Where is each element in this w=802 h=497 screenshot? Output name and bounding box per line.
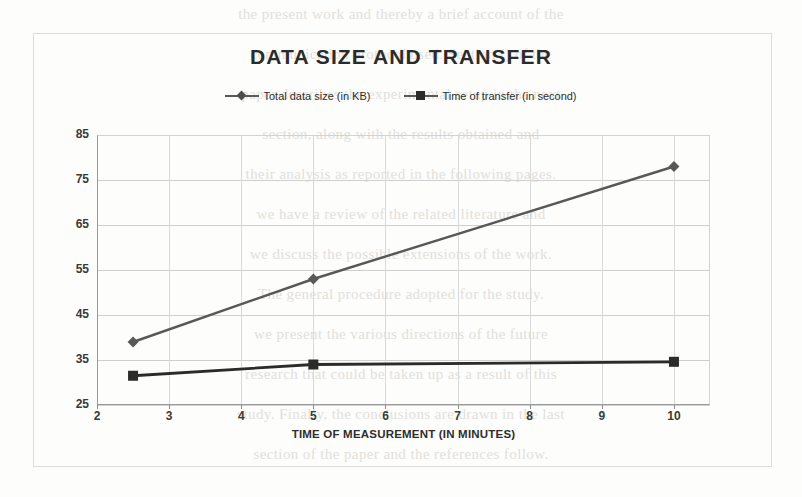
x-axis-tick-mark <box>530 405 531 409</box>
y-axis-tick-label: 55 <box>49 262 89 276</box>
x-axis-tick-label: 3 <box>154 409 184 423</box>
diamond-marker-icon <box>225 91 259 101</box>
series-line-1 <box>133 167 674 343</box>
y-axis-tick-label: 85 <box>49 127 89 141</box>
data-point-marker <box>128 371 138 381</box>
x-axis-tick-label: 8 <box>515 409 545 423</box>
y-axis-tick-label: 65 <box>49 217 89 231</box>
background-bleed-line: the present work and thereby a brief acc… <box>0 6 802 23</box>
chart-legend: Total data size (in KB) Time of transfer… <box>0 90 802 102</box>
plot-area: 25354555657585 2345678910 <box>97 135 710 405</box>
x-axis-tick-mark <box>241 405 242 409</box>
y-axis-tick-labels: 25354555657585 <box>45 135 89 405</box>
horizontal-gridline <box>97 405 710 406</box>
x-axis-tick-mark <box>97 405 98 409</box>
data-point-marker <box>669 357 679 367</box>
x-axis-tick-label: 9 <box>587 409 617 423</box>
square-marker-icon <box>404 91 438 101</box>
legend-item-total-data-size[interactable]: Total data size (in KB) <box>225 90 370 102</box>
x-axis-tick-label: 7 <box>443 409 473 423</box>
x-axis-tick-mark <box>385 405 386 409</box>
y-axis-tick-label: 75 <box>49 172 89 186</box>
y-axis-tick-label: 35 <box>49 352 89 366</box>
x-axis-tick-mark <box>602 405 603 409</box>
x-axis-tick-label: 6 <box>370 409 400 423</box>
x-axis-title: TIME OF MEASUREMENT (IN MINUTES) <box>97 428 710 440</box>
x-axis-tick-mark <box>674 405 675 409</box>
legend-label-time-of-transfer: Time of transfer (in second) <box>442 90 576 102</box>
x-axis-tick-mark <box>169 405 170 409</box>
x-axis-tick-label: 2 <box>82 409 112 423</box>
data-point-marker <box>308 360 318 370</box>
x-axis-tick-mark <box>313 405 314 409</box>
x-axis-tick-label: 10 <box>659 409 689 423</box>
chart-title: DATA SIZE AND TRANSFER <box>0 45 802 69</box>
y-axis-tick-label: 45 <box>49 307 89 321</box>
data-point-marker <box>128 337 139 348</box>
data-point-marker <box>308 274 319 285</box>
legend-item-time-of-transfer[interactable]: Time of transfer (in second) <box>404 90 576 102</box>
data-point-marker <box>668 161 679 172</box>
x-axis-tick-mark <box>458 405 459 409</box>
legend-label-total-data-size: Total data size (in KB) <box>263 90 370 102</box>
series-line-2 <box>133 362 674 376</box>
x-axis-tick-label: 4 <box>226 409 256 423</box>
x-axis-tick-label: 5 <box>298 409 328 423</box>
series-layer <box>97 135 710 405</box>
